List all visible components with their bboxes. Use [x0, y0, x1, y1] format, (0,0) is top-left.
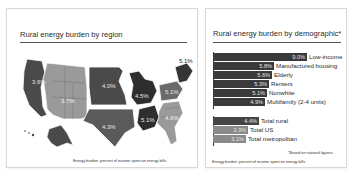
region-label-south-central: 5.1%: [141, 117, 155, 123]
region-label-mountain: 3.7%: [61, 98, 75, 104]
bar-value: 5.6%: [257, 71, 270, 79]
bar: 4.4%: [213, 117, 259, 125]
bar-value: 4.9%: [250, 98, 263, 106]
region-southeast: [157, 101, 183, 145]
bar-row: 3.1% Total metropolitan: [213, 135, 297, 143]
bar-note: *Based on national figures.: [288, 151, 333, 155]
bar-label: Elderly: [274, 71, 293, 79]
bar-label: Low-income: [309, 53, 342, 61]
map-footnote: Energy burden: percent of income spent o…: [73, 159, 166, 163]
bar-value: 5.8%: [259, 62, 272, 70]
bar: 3.3%: [213, 126, 248, 134]
region-label-great-lakes: 4.5%: [135, 93, 149, 99]
bar-value: 3.3%: [233, 126, 246, 134]
bar-row: 3.3% Total US: [213, 126, 273, 134]
us-region-map: 3.6% 3.7% 4.0% 4.5% 5.1% 5.1% 4.6% 5.1% …: [7, 9, 197, 167]
bar: 5.3%: [213, 80, 269, 88]
bar-footnote: Energy burden: percent of income spent o…: [212, 160, 305, 164]
region-label-southwest: 4.3%: [102, 124, 116, 130]
title-underline: [213, 42, 341, 43]
region-label-mid-atlantic: 5.1%: [165, 89, 179, 95]
region-label-west-coast: 3.6%: [32, 79, 46, 85]
bar: 4.9%: [213, 98, 265, 106]
bar: 5.6%: [213, 71, 272, 79]
bar-value: 5.3%: [254, 80, 267, 88]
region-great-lakes: [129, 71, 157, 105]
bar-label: Nonwhite: [269, 89, 295, 97]
bar-row: 5.3% Renters: [213, 80, 293, 88]
bar: 5.8%: [213, 62, 274, 70]
bar-panel: Rural energy burden by demographic* 9.0%…: [205, 8, 347, 168]
region-new-england: [175, 63, 193, 83]
bar-row: 5.1% Nonwhite: [213, 89, 295, 97]
bar-row: 5.8% Manufactured housing: [213, 62, 337, 70]
bar: 3.1%: [213, 135, 246, 143]
bar: 5.1%: [213, 89, 267, 97]
bar-row: 4.4% Total rural: [213, 117, 288, 125]
bar-label: Total metropolitan: [248, 135, 297, 143]
bar-value: 4.4%: [244, 117, 257, 125]
map-panel: Rural energy burden by region 3.6% 3.7% …: [6, 8, 198, 168]
region-alaska: [47, 125, 73, 147]
region-label-southeast: 4.6%: [165, 115, 179, 121]
bar-label: Multifamily (2-4 units): [267, 98, 326, 106]
bar-value: 3.1%: [231, 135, 244, 143]
bar-row: 9.0% Low-income: [213, 53, 342, 61]
bar-label: Total US: [250, 126, 273, 134]
bar-label: Manufactured housing: [276, 62, 337, 70]
bar-label: Total rural: [261, 117, 288, 125]
bar-value: 9.0%: [292, 53, 305, 61]
region-west-coast: [23, 59, 47, 117]
bar-label: Renters: [271, 80, 293, 88]
bar-row: 5.6% Elderly: [213, 71, 293, 79]
bar-value: 5.1%: [252, 89, 265, 97]
region-label-midwest: 4.0%: [102, 83, 116, 89]
bar-row: 4.9% Multifamily (2-4 units): [213, 98, 326, 106]
bar: 9.0%: [213, 53, 307, 61]
bar-title: Rural energy burden by demographic*: [213, 29, 341, 38]
region-label-new-england: 5.1%: [179, 58, 193, 64]
